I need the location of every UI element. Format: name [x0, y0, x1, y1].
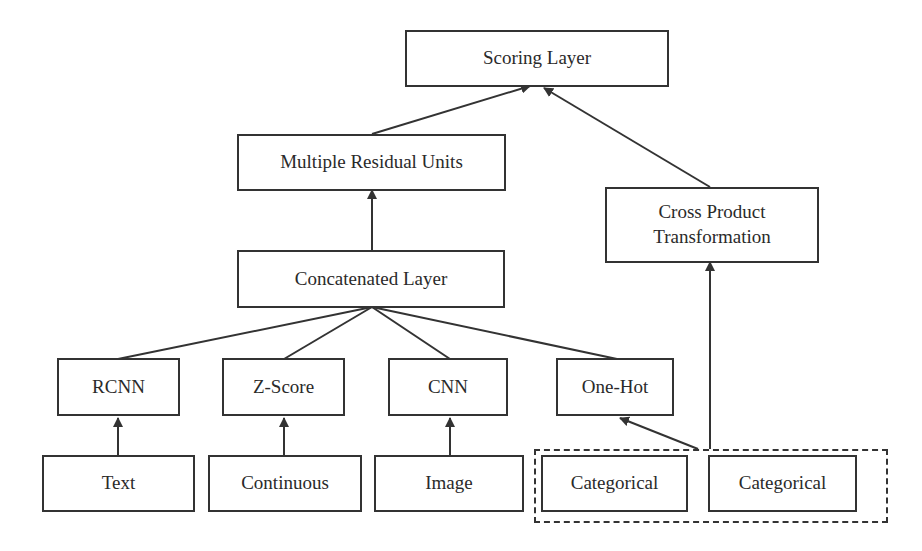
concatenated-layer-node: Concatenated Layer: [237, 250, 505, 308]
rcnn-node: RCNN: [57, 358, 180, 416]
edge-zscore-to-concat: [284, 307, 372, 359]
cross-product-node: Cross Product Transformation: [605, 187, 819, 263]
onehot-node: One-Hot: [556, 358, 674, 416]
text-input-node: Text: [42, 455, 195, 512]
categorical-input-node-1: Categorical: [541, 455, 688, 512]
zscore-node: Z-Score: [222, 358, 345, 416]
edge-rcnn-to-concat: [118, 307, 372, 359]
residual-units-node: Multiple Residual Units: [237, 134, 506, 191]
edge-residual-to-scoring: [372, 86, 530, 134]
edge-cross-to-scoring: [544, 88, 710, 187]
scoring-layer-node: Scoring Layer: [405, 30, 669, 87]
continuous-input-node: Continuous: [208, 455, 362, 512]
edge-categorical-to-onehot: [620, 418, 698, 449]
edge-onehot-to-concat: [372, 307, 617, 359]
cnn-node: CNN: [388, 358, 508, 416]
categorical-input-node-2: Categorical: [708, 455, 857, 512]
image-input-node: Image: [374, 455, 524, 512]
